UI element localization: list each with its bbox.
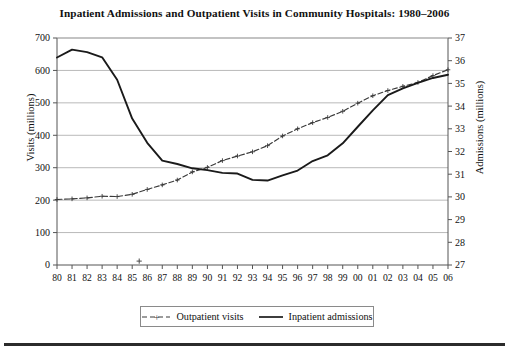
svg-text:700: 700 bbox=[35, 32, 50, 43]
svg-text:0: 0 bbox=[45, 259, 50, 270]
svg-text:90: 90 bbox=[203, 272, 213, 283]
svg-text:05: 05 bbox=[428, 272, 438, 283]
svg-text:88: 88 bbox=[173, 272, 183, 283]
svg-text:35: 35 bbox=[455, 78, 465, 89]
svg-text:27: 27 bbox=[455, 259, 465, 270]
svg-text:300: 300 bbox=[35, 162, 50, 173]
svg-text:29: 29 bbox=[455, 214, 465, 225]
svg-text:04: 04 bbox=[413, 272, 423, 283]
svg-text:99: 99 bbox=[338, 272, 348, 283]
svg-text:36: 36 bbox=[455, 55, 465, 66]
chart-plot-area: 0100200300400500600700 27282930313233343… bbox=[0, 0, 509, 352]
gridlines-group bbox=[57, 38, 448, 233]
y-axis-left-ticks: 0100200300400500600700 bbox=[35, 32, 57, 270]
legend-solid-line-icon bbox=[258, 312, 284, 322]
svg-text:84: 84 bbox=[112, 272, 122, 283]
svg-text:93: 93 bbox=[248, 272, 258, 283]
svg-text:96: 96 bbox=[293, 272, 303, 283]
svg-text:89: 89 bbox=[188, 272, 198, 283]
svg-text:87: 87 bbox=[157, 272, 167, 283]
svg-text:200: 200 bbox=[35, 195, 50, 206]
svg-text:06: 06 bbox=[443, 272, 453, 283]
svg-text:80: 80 bbox=[52, 272, 62, 283]
x-axis-ticks: 8081828384858687888990919293949596979899… bbox=[52, 265, 453, 283]
chart-legend: + Outpatient visits Inpatient admissions bbox=[140, 306, 374, 327]
svg-text:01: 01 bbox=[368, 272, 378, 283]
data-series-layer bbox=[55, 50, 451, 202]
svg-text:95: 95 bbox=[278, 272, 288, 283]
svg-text:92: 92 bbox=[233, 272, 243, 283]
svg-text:82: 82 bbox=[82, 272, 92, 283]
svg-text:28: 28 bbox=[455, 237, 465, 248]
annotation-layer bbox=[137, 259, 142, 264]
svg-text:85: 85 bbox=[127, 272, 137, 283]
svg-text:03: 03 bbox=[398, 272, 408, 283]
svg-text:+: + bbox=[154, 312, 160, 322]
svg-text:30: 30 bbox=[455, 191, 465, 202]
svg-text:98: 98 bbox=[323, 272, 333, 283]
svg-text:31: 31 bbox=[455, 169, 465, 180]
svg-text:94: 94 bbox=[263, 272, 273, 283]
svg-text:100: 100 bbox=[35, 227, 50, 238]
svg-text:86: 86 bbox=[142, 272, 152, 283]
chart-figure: Inpatient Admissions and Outpatient Visi… bbox=[0, 0, 509, 352]
legend-label-inpatient-admissions: Inpatient admissions bbox=[289, 311, 373, 322]
svg-text:600: 600 bbox=[35, 65, 50, 76]
svg-text:37: 37 bbox=[455, 32, 465, 43]
svg-text:33: 33 bbox=[455, 123, 465, 134]
legend-dashed-line-icon: + bbox=[141, 312, 171, 322]
svg-text:34: 34 bbox=[455, 101, 465, 112]
svg-text:00: 00 bbox=[353, 272, 363, 283]
svg-text:400: 400 bbox=[35, 130, 50, 141]
svg-text:02: 02 bbox=[383, 272, 393, 283]
svg-text:500: 500 bbox=[35, 97, 50, 108]
svg-text:97: 97 bbox=[308, 272, 318, 283]
svg-text:81: 81 bbox=[67, 272, 77, 283]
bottom-divider-rule bbox=[4, 343, 505, 346]
svg-text:32: 32 bbox=[455, 146, 465, 157]
legend-item-inpatient-admissions: Inpatient admissions bbox=[258, 311, 373, 322]
legend-item-outpatient-visits: + Outpatient visits bbox=[141, 311, 243, 322]
svg-text:91: 91 bbox=[218, 272, 228, 283]
y-axis-right-ticks: 2728293031323334353637 bbox=[448, 32, 465, 270]
legend-label-outpatient-visits: Outpatient visits bbox=[176, 311, 243, 322]
svg-text:83: 83 bbox=[97, 272, 107, 283]
